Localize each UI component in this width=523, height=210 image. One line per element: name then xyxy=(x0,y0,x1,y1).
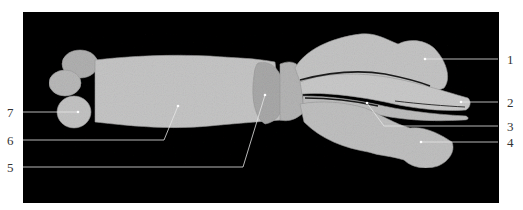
collar xyxy=(253,62,284,124)
label-3: 3 xyxy=(507,120,514,134)
label-4: 4 xyxy=(507,136,514,150)
label-5: 5 xyxy=(7,161,14,175)
label-1: 1 xyxy=(507,53,514,67)
specimen-illustration xyxy=(0,0,523,210)
label-6: 6 xyxy=(7,134,14,148)
label-2: 2 xyxy=(507,96,514,110)
label-7: 7 xyxy=(7,106,14,120)
